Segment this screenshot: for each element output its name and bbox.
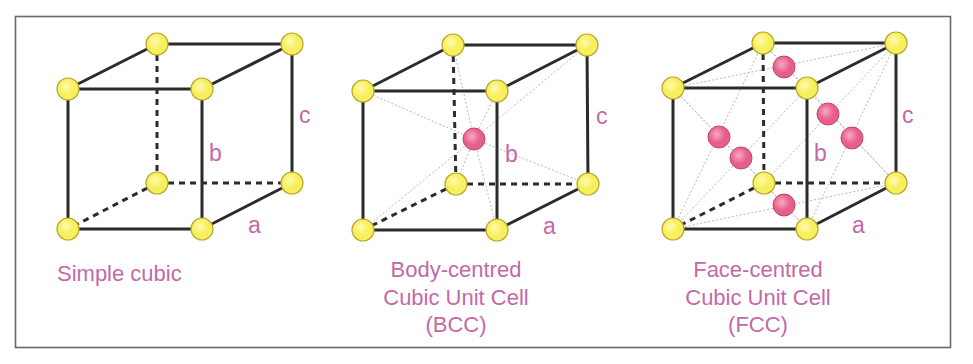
unit-cell-simple-cubic: abcSimple cubic — [57, 33, 311, 286]
face-center-atom — [773, 194, 795, 216]
hidden-edge — [763, 43, 764, 183]
unit-cell-fcc: abcFace-centredCubic Unit Cell(FCC) — [662, 32, 914, 337]
corner-atom — [442, 34, 464, 56]
cube-edge — [497, 45, 587, 91]
axis-label-c: c — [902, 102, 914, 128]
face-center-atom — [841, 127, 863, 149]
cube-edge — [202, 183, 292, 229]
axis-label-b: b — [814, 140, 827, 166]
crystal-unit-cells-diagram: abcSimple cubicabcBody-centredCubic Unit… — [0, 0, 973, 364]
corner-atom — [191, 218, 213, 240]
corner-atom — [662, 218, 684, 240]
axis-label-a: a — [248, 212, 261, 238]
corner-atom — [577, 173, 599, 195]
cube-edge — [587, 45, 588, 184]
corner-atom — [752, 32, 774, 54]
unit-cell-bcc: abcBody-centredCubic Unit Cell(BCC) — [352, 34, 608, 337]
caption-line: Cubic Unit Cell — [685, 285, 831, 310]
corner-atom — [885, 172, 907, 194]
cube-edge — [363, 45, 453, 91]
corner-atom — [486, 80, 508, 102]
cube-edge — [673, 43, 763, 88]
caption-line: Cubic Unit Cell — [383, 285, 529, 310]
caption-line: Face-centred — [693, 257, 823, 282]
corner-atom — [191, 78, 213, 100]
corner-atom — [281, 33, 303, 55]
axis-label-b: b — [209, 140, 222, 166]
corner-atom — [146, 172, 168, 194]
guide-line — [474, 139, 588, 184]
corner-atom — [885, 32, 907, 54]
corner-atom — [146, 33, 168, 55]
face-center-atom — [730, 147, 752, 169]
cube-edge — [807, 43, 896, 88]
corner-atom — [796, 77, 818, 99]
face-center-atom — [708, 126, 730, 148]
corner-atom — [445, 173, 467, 195]
corner-atom — [281, 172, 303, 194]
cell-caption: Body-centredCubic Unit Cell(BCC) — [383, 257, 529, 337]
corner-atom — [57, 218, 79, 240]
cell-caption: Face-centredCubic Unit Cell(FCC) — [685, 257, 831, 337]
axis-label-a: a — [852, 212, 865, 238]
cube-edge — [68, 44, 157, 89]
caption-line: (FCC) — [728, 312, 788, 337]
corner-atom — [57, 78, 79, 100]
guide-line — [363, 91, 474, 139]
corner-atom — [352, 80, 374, 102]
axis-label-c: c — [596, 103, 608, 129]
body-center-atom — [463, 128, 485, 150]
hidden-edge — [68, 183, 157, 229]
cube-edge — [202, 44, 292, 89]
axis-label-c: c — [299, 102, 311, 128]
axis-label-a: a — [543, 213, 556, 239]
face-center-atom — [773, 56, 795, 78]
corner-atom — [486, 219, 508, 241]
corner-atom — [796, 218, 818, 240]
hidden-edge — [453, 45, 456, 184]
caption-line: Simple cubic — [57, 261, 182, 286]
hidden-edge — [363, 184, 456, 230]
corner-atom — [352, 219, 374, 241]
corner-atom — [662, 77, 684, 99]
hidden-edge — [673, 183, 764, 229]
face-center-atom — [817, 103, 839, 125]
corner-atom — [576, 34, 598, 56]
corner-atom — [753, 172, 775, 194]
unit-cells: abcSimple cubicabcBody-centredCubic Unit… — [57, 32, 914, 337]
axis-label-b: b — [505, 141, 518, 167]
cell-caption: Simple cubic — [57, 261, 182, 286]
caption-line: Body-centred — [391, 257, 522, 282]
caption-line: (BCC) — [425, 312, 486, 337]
